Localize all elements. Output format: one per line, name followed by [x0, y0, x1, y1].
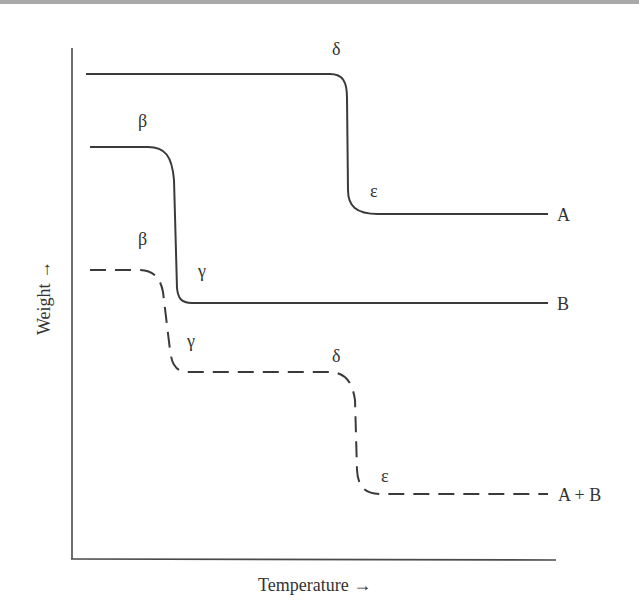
annotation-b-gamma: γ	[198, 262, 206, 280]
curve-ab-label: A + B	[558, 486, 601, 504]
tga-diagram	[0, 0, 639, 606]
annotation-b-beta: β	[138, 112, 147, 130]
annotation-ab-delta: δ	[332, 347, 340, 365]
curve-a-label: A	[557, 206, 570, 224]
curve-a	[86, 74, 548, 214]
x-axis	[71, 559, 556, 560]
curve-b	[90, 147, 548, 303]
annotation-a-delta: δ	[332, 40, 340, 58]
annotation-ab-gamma: γ	[187, 332, 195, 350]
annotation-ab-epsilon: ε	[381, 467, 389, 485]
annotation-a-epsilon: ε	[370, 182, 378, 200]
y-axis-label: Weight →	[35, 261, 53, 335]
annotation-ab-beta: β	[138, 230, 147, 248]
curve-b-label: B	[557, 295, 569, 313]
x-axis-label: Temperature →	[258, 576, 371, 594]
